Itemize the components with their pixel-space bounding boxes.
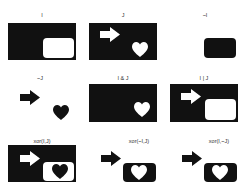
arrow-shape — [101, 151, 121, 166]
heart-shape — [53, 105, 69, 120]
figure-canvas — [0, 0, 247, 193]
rounded-rect-shape — [43, 38, 74, 58]
rounded-rect-shape — [204, 38, 236, 58]
arrow-shape — [20, 90, 40, 105]
arrow-shape — [182, 151, 202, 166]
panel-not-j — [20, 90, 69, 120]
panel-j — [89, 23, 157, 60]
panel-i-and-j — [89, 84, 157, 122]
panel-xor-i-j — [8, 145, 76, 182]
panel-not-i — [204, 38, 236, 58]
rounded-rect-shape — [205, 99, 236, 120]
panel-i — [8, 23, 76, 60]
panel-xor-i-not-j — [182, 151, 237, 182]
panel-i-or-j — [170, 84, 238, 122]
panel-xor-not-i-j — [101, 151, 156, 182]
